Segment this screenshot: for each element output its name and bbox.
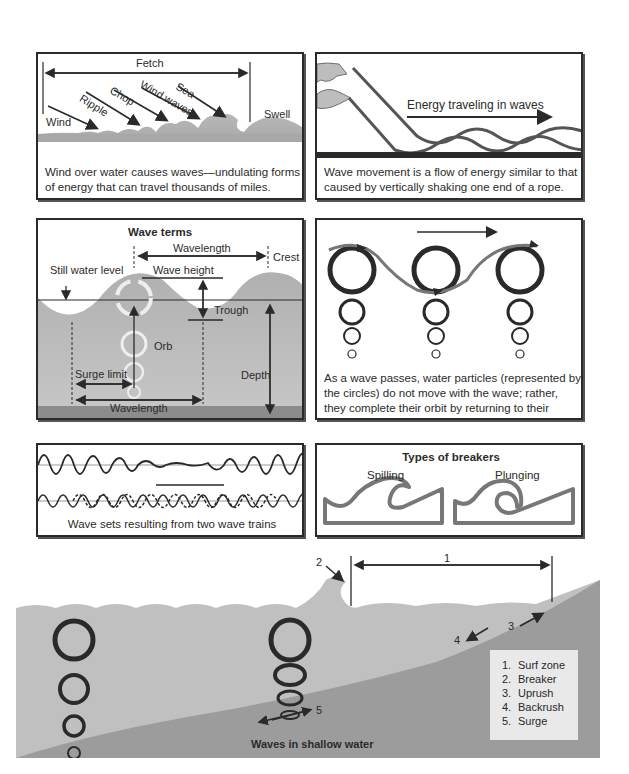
panel-wave-terms: Wave terms Wavelength Crest Still water … — [36, 218, 304, 420]
still-water-level-label: Still water level — [50, 264, 123, 276]
wind-caption: Wind over water causes waves—undulating … — [45, 165, 303, 195]
surge-limit-label: Surge limit — [75, 368, 127, 380]
trough-label: Trough — [214, 304, 248, 316]
marker-2: 2 — [316, 556, 322, 568]
shallow-water-legend: 1.Surf zone 2.Breaker 3.Uprush 4.Backrus… — [490, 650, 578, 740]
orb-label: Orb — [154, 340, 172, 352]
marker-5: 5 — [316, 704, 322, 716]
wave-terms-illustration — [38, 220, 304, 420]
panel-wind-fetch: Fetch Wind Ripple Chop Wind waves Sea Sw… — [36, 52, 304, 200]
legend-item: 4.Backrush — [502, 700, 568, 714]
energy-arrow-label: Energy traveling in waves — [407, 98, 544, 112]
wavelength-bottom-label: Wavelength — [110, 402, 168, 414]
wave-sets-caption: Wave sets resulting from two wave trains — [38, 517, 304, 532]
wave-height-label: Wave height — [153, 264, 214, 276]
panel-shallow-water: 1 2 3 4 5 1.Surf zone 2.Breaker 3.Uprush… — [16, 552, 600, 758]
panel-wave-sets: Wave sets resulting from two wave trains — [36, 443, 304, 537]
orbits-caption: As a wave passes, water particles (repre… — [324, 371, 582, 420]
depth-label: Depth — [241, 369, 270, 381]
legend-item: 2.Breaker — [502, 672, 568, 686]
marker-4: 4 — [454, 634, 460, 646]
legend-item: 3.Uprush — [502, 686, 568, 700]
rope-caption: Wave movement is a flow of energy simila… — [324, 165, 582, 195]
swell-label: Swell — [264, 108, 290, 120]
legend-item: 5.Surge — [502, 714, 568, 728]
legend-item: 1.Surf zone — [502, 658, 568, 672]
shallow-water-title: Waves in shallow water — [251, 738, 373, 750]
wind-label: Wind — [46, 116, 71, 128]
panel-rope-energy: Energy traveling in waves Wave movement … — [315, 52, 583, 200]
panel-breaker-types: Types of breakers Spilling Plunging — [315, 443, 583, 537]
marker-1: 1 — [444, 552, 450, 564]
wavelength-top-label: Wavelength — [173, 242, 231, 254]
spilling-label: Spilling — [367, 469, 404, 481]
hand-icon — [317, 89, 351, 108]
breakers-title: Types of breakers — [317, 451, 583, 463]
wave-terms-title: Wave terms — [128, 226, 192, 238]
fetch-label: Fetch — [136, 57, 164, 69]
plunging-label: Plunging — [495, 469, 540, 481]
panel-particle-orbits: As a wave passes, water particles (repre… — [315, 218, 583, 420]
crest-label: Crest — [273, 251, 299, 263]
marker-3: 3 — [508, 620, 514, 632]
hand-icon — [317, 63, 347, 82]
